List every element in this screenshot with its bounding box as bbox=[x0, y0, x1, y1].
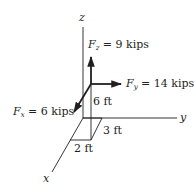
dim-2ft-label: 2 ft bbox=[74, 143, 93, 154]
y-axis-label: y bbox=[180, 112, 186, 123]
fx-arrow bbox=[74, 84, 91, 112]
fy-label: Fy = 14 kips bbox=[126, 78, 194, 91]
fz-label: Fz = 9 kips bbox=[88, 39, 149, 52]
dim-3ft-label: 3 ft bbox=[103, 125, 122, 136]
box-right-edge bbox=[91, 118, 102, 140]
dim-6ft-label: 6 ft bbox=[93, 96, 112, 107]
x-axis-label: x bbox=[43, 173, 49, 184]
fx-label: Fx = 6 kips bbox=[13, 106, 74, 119]
z-axis-label: z bbox=[79, 12, 85, 23]
